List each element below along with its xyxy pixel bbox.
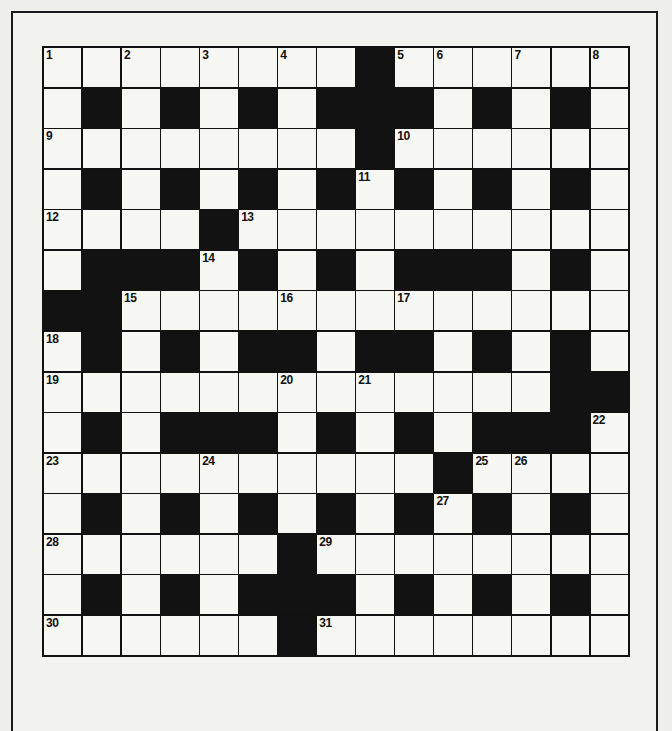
- crossword-cell[interactable]: [122, 170, 159, 209]
- crossword-cell[interactable]: [122, 494, 159, 533]
- crossword-cell[interactable]: [473, 291, 510, 330]
- crossword-cell[interactable]: 14: [200, 251, 237, 290]
- crossword-cell[interactable]: [317, 48, 354, 87]
- crossword-cell[interactable]: [512, 535, 549, 574]
- crossword-cell[interactable]: [512, 210, 549, 249]
- crossword-cell[interactable]: [161, 535, 198, 574]
- crossword-cell[interactable]: [552, 210, 589, 249]
- crossword-cell[interactable]: [552, 616, 589, 655]
- crossword-cell[interactable]: 25: [473, 454, 510, 493]
- crossword-cell[interactable]: [161, 48, 198, 87]
- crossword-cell[interactable]: [239, 129, 276, 168]
- crossword-cell[interactable]: [434, 575, 471, 614]
- crossword-cell[interactable]: [122, 129, 159, 168]
- crossword-cell[interactable]: 4: [278, 48, 315, 87]
- crossword-cell[interactable]: [44, 89, 81, 128]
- crossword-cell[interactable]: [473, 48, 510, 87]
- crossword-cell[interactable]: [278, 129, 315, 168]
- crossword-cell[interactable]: 24: [200, 454, 237, 493]
- crossword-cell[interactable]: [317, 129, 354, 168]
- crossword-cell[interactable]: [122, 575, 159, 614]
- crossword-cell[interactable]: [122, 210, 159, 249]
- crossword-cell[interactable]: [512, 575, 549, 614]
- crossword-cell[interactable]: 3: [200, 48, 237, 87]
- crossword-cell[interactable]: [122, 616, 159, 655]
- crossword-cell[interactable]: [44, 170, 81, 209]
- crossword-cell[interactable]: [591, 210, 628, 249]
- crossword-cell[interactable]: [395, 535, 432, 574]
- crossword-cell[interactable]: [473, 373, 510, 412]
- crossword-cell[interactable]: [473, 210, 510, 249]
- crossword-cell[interactable]: [512, 332, 549, 371]
- crossword-cell[interactable]: [512, 373, 549, 412]
- crossword-cell[interactable]: [161, 616, 198, 655]
- crossword-cell[interactable]: [512, 616, 549, 655]
- crossword-cell[interactable]: [317, 332, 354, 371]
- crossword-cell[interactable]: [200, 494, 237, 533]
- crossword-cell[interactable]: [591, 170, 628, 209]
- crossword-cell[interactable]: [434, 616, 471, 655]
- crossword-cell[interactable]: 28: [44, 535, 81, 574]
- crossword-cell[interactable]: 26: [512, 454, 549, 493]
- crossword-cell[interactable]: [83, 535, 120, 574]
- crossword-cell[interactable]: [512, 251, 549, 290]
- crossword-cell[interactable]: [278, 413, 315, 452]
- crossword-cell[interactable]: [512, 170, 549, 209]
- crossword-cell[interactable]: [317, 373, 354, 412]
- crossword-cell[interactable]: [200, 170, 237, 209]
- crossword-cell[interactable]: 13: [239, 210, 276, 249]
- crossword-cell[interactable]: 18: [44, 332, 81, 371]
- crossword-cell[interactable]: [356, 251, 393, 290]
- crossword-cell[interactable]: [44, 494, 81, 533]
- crossword-cell[interactable]: [278, 89, 315, 128]
- crossword-cell[interactable]: [200, 535, 237, 574]
- crossword-cell[interactable]: [434, 373, 471, 412]
- crossword-cell[interactable]: 20: [278, 373, 315, 412]
- crossword-cell[interactable]: [395, 616, 432, 655]
- crossword-cell[interactable]: [434, 332, 471, 371]
- crossword-cell[interactable]: 17: [395, 291, 432, 330]
- crossword-cell[interactable]: [161, 210, 198, 249]
- crossword-cell[interactable]: 7: [512, 48, 549, 87]
- crossword-cell[interactable]: [83, 373, 120, 412]
- crossword-cell[interactable]: [591, 616, 628, 655]
- crossword-cell[interactable]: [591, 89, 628, 128]
- crossword-cell[interactable]: [434, 129, 471, 168]
- crossword-cell[interactable]: 10: [395, 129, 432, 168]
- crossword-cell[interactable]: [278, 251, 315, 290]
- crossword-cell[interactable]: [83, 48, 120, 87]
- crossword-cell[interactable]: [552, 291, 589, 330]
- crossword-cell[interactable]: [591, 575, 628, 614]
- crossword-cell[interactable]: [434, 413, 471, 452]
- crossword-cell[interactable]: [239, 291, 276, 330]
- crossword-cell[interactable]: [44, 251, 81, 290]
- crossword-cell[interactable]: [200, 575, 237, 614]
- crossword-cell[interactable]: [200, 129, 237, 168]
- crossword-cell[interactable]: [473, 535, 510, 574]
- crossword-cell[interactable]: 2: [122, 48, 159, 87]
- crossword-cell[interactable]: [356, 494, 393, 533]
- crossword-cell[interactable]: 11: [356, 170, 393, 209]
- crossword-cell[interactable]: [239, 48, 276, 87]
- crossword-cell[interactable]: 1: [44, 48, 81, 87]
- crossword-cell[interactable]: [122, 413, 159, 452]
- crossword-cell[interactable]: [395, 210, 432, 249]
- crossword-cell[interactable]: 15: [122, 291, 159, 330]
- crossword-cell[interactable]: [161, 291, 198, 330]
- crossword-cell[interactable]: [591, 129, 628, 168]
- crossword-cell[interactable]: [200, 373, 237, 412]
- crossword-cell[interactable]: [552, 129, 589, 168]
- crossword-cell[interactable]: [512, 494, 549, 533]
- crossword-cell[interactable]: [161, 129, 198, 168]
- crossword-cell[interactable]: [512, 291, 549, 330]
- crossword-cell[interactable]: [552, 48, 589, 87]
- crossword-cell[interactable]: [434, 535, 471, 574]
- crossword-cell[interactable]: [434, 170, 471, 209]
- crossword-cell[interactable]: 5: [395, 48, 432, 87]
- crossword-cell[interactable]: [278, 170, 315, 209]
- crossword-cell[interactable]: [239, 373, 276, 412]
- crossword-cell[interactable]: [552, 535, 589, 574]
- crossword-cell[interactable]: [356, 454, 393, 493]
- crossword-cell[interactable]: [591, 535, 628, 574]
- crossword-cell[interactable]: 27: [434, 494, 471, 533]
